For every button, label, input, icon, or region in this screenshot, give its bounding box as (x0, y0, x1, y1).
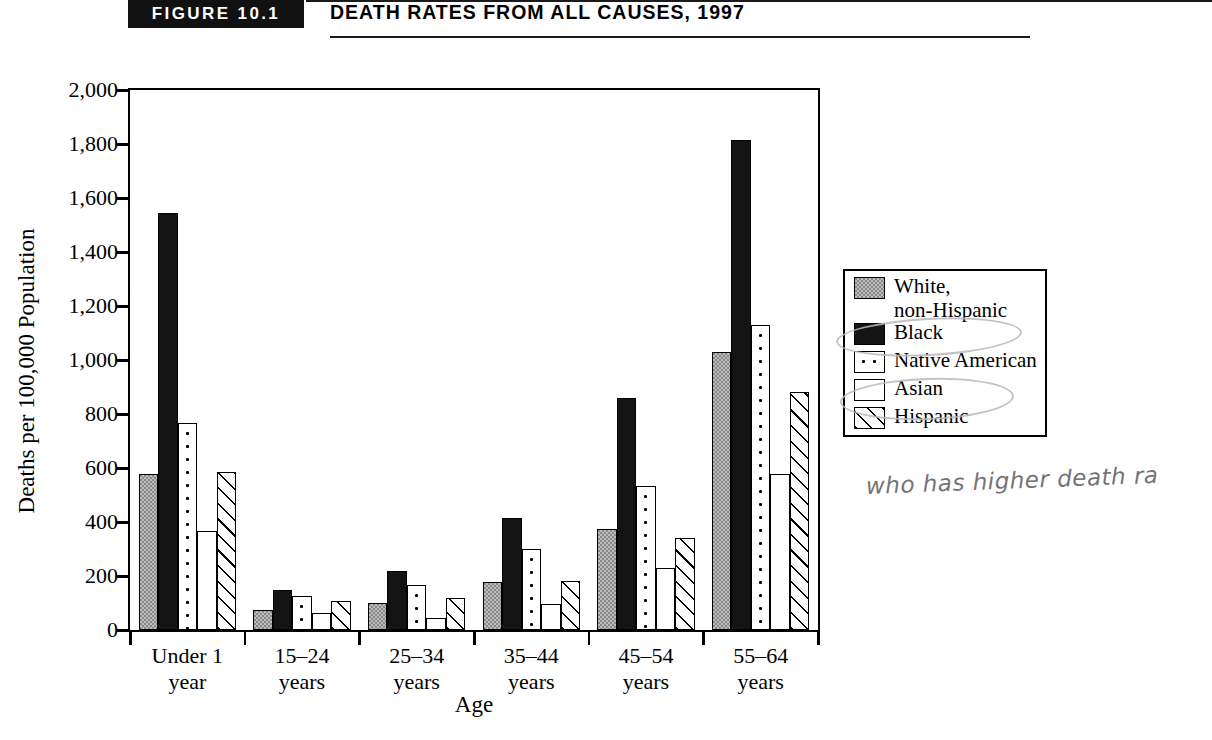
bar (331, 601, 351, 630)
y-axis-tick-mark (116, 305, 128, 308)
y-axis-tick-mark (116, 467, 128, 470)
bar (312, 613, 332, 630)
bar (387, 571, 407, 630)
bar (139, 474, 159, 630)
y-axis-tick-mark (116, 629, 128, 632)
bar (292, 596, 312, 630)
handwritten-note: who has higher death ra (866, 460, 1212, 499)
bar (426, 618, 446, 630)
y-axis-tick-label: 1,200 (69, 293, 119, 319)
x-axis-category-label: Under 1year (130, 643, 245, 695)
bar-group (703, 90, 818, 630)
y-axis-tick-label: 200 (85, 563, 118, 589)
bar-group (130, 90, 245, 630)
bar (617, 398, 637, 630)
y-axis-tick-mark (116, 359, 128, 362)
legend-swatch (854, 277, 885, 299)
bar (597, 529, 617, 630)
x-axis-category-label: 55–64years (703, 643, 818, 695)
chart-figure: 02004006008001,0001,2001,4001,6001,8002,… (0, 0, 1212, 740)
bar (751, 325, 771, 630)
bar (217, 472, 237, 630)
bar (712, 352, 732, 630)
category-label-line: 35–44 (474, 643, 589, 669)
bar (790, 392, 810, 630)
bar (158, 213, 178, 630)
category-label-line: years (359, 669, 474, 695)
y-axis-tick-label: 1,400 (69, 239, 119, 265)
y-axis-tick-mark (116, 89, 128, 92)
category-label-line: 45–54 (589, 643, 704, 669)
x-axis-category-label: 35–44years (474, 643, 589, 695)
bar-group (474, 90, 589, 630)
y-axis-tick-label: 1,000 (69, 347, 119, 373)
bar (675, 538, 695, 630)
y-axis-tick-mark (116, 197, 128, 200)
bar (483, 582, 503, 630)
y-axis-tick-label: 400 (85, 509, 118, 535)
y-axis-tick-label: 800 (85, 401, 118, 427)
category-label-line: years (245, 669, 360, 695)
legend-item-label: White,non-Hispanic (894, 275, 1007, 322)
bar (502, 518, 522, 630)
y-axis-tick-label: 1,800 (69, 131, 119, 157)
x-axis-title: Age (128, 692, 820, 718)
category-label-line: years (703, 669, 818, 695)
bar (656, 568, 676, 630)
bar (197, 531, 217, 630)
category-label-line: Under 1 (130, 643, 245, 669)
bar (636, 486, 656, 630)
bar (446, 598, 466, 630)
bar (731, 140, 751, 630)
bar-series-layer (130, 90, 818, 630)
x-axis-category-label: 25–34years (359, 643, 474, 695)
y-axis-tick-mark (116, 251, 128, 254)
bar-group (245, 90, 360, 630)
legend-label-line: White, (894, 275, 1007, 299)
bar (368, 603, 388, 630)
bar-group (589, 90, 704, 630)
y-axis-tick-mark (116, 521, 128, 524)
bar (522, 549, 542, 630)
y-axis-tick-label: 600 (85, 455, 118, 481)
bar (407, 585, 427, 630)
category-label-line: years (589, 669, 704, 695)
bar (178, 423, 198, 630)
bar (770, 474, 790, 630)
bar-group (359, 90, 474, 630)
category-label-line: 55–64 (703, 643, 818, 669)
category-label-line: years (474, 669, 589, 695)
bar (541, 604, 561, 630)
category-label-line: 25–34 (359, 643, 474, 669)
bar (273, 590, 293, 631)
category-label-line: year (130, 669, 245, 695)
y-axis-tick-mark (116, 413, 128, 416)
y-axis-tick-mark (116, 143, 128, 146)
y-axis-title: Deaths per 100,000 Population (14, 111, 40, 631)
bar (561, 581, 581, 630)
x-axis-category-label: 15–24years (245, 643, 360, 695)
y-axis-tick-label: 2,000 (69, 77, 119, 103)
y-axis-tick-mark (116, 575, 128, 578)
bar (253, 610, 273, 630)
x-axis-category-label: 45–54years (589, 643, 704, 695)
y-axis-tick-label: 1,600 (69, 185, 119, 211)
category-label-line: 15–24 (245, 643, 360, 669)
